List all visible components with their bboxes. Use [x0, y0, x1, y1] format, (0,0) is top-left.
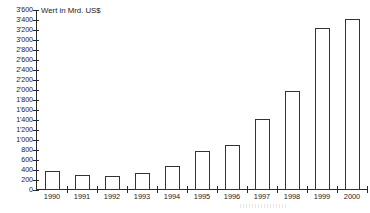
bar: [105, 176, 120, 190]
y-axis-tick-label: 2'400: [0, 66, 33, 73]
y-axis-tick-label: 400: [0, 166, 33, 173]
x-axis-tick-label: 1995: [187, 192, 217, 201]
bar: [165, 166, 180, 191]
y-axis-tick-label: 1'200: [0, 126, 33, 133]
bar: [345, 19, 360, 191]
scan-artifact: [240, 204, 288, 208]
y-axis-tick-label: 200: [0, 176, 33, 183]
x-axis-tick-mark: [367, 186, 368, 193]
bar: [255, 119, 270, 191]
x-axis-tick-label: 1996: [217, 192, 247, 201]
bar: [315, 28, 330, 191]
y-axis-tick-label: 0: [0, 186, 33, 193]
bar-chart: 02004006008001'0001'2001'4001'6001'8002'…: [0, 0, 370, 213]
bar: [195, 151, 210, 190]
y-axis-tick-label: 1'000: [0, 136, 33, 143]
bar: [285, 91, 300, 191]
y-axis-tick-label: 3'400: [0, 16, 33, 23]
x-axis-tick-label: 1994: [157, 192, 187, 201]
x-axis-tick-label: 2000: [337, 192, 367, 201]
y-axis-tick-label: 2'600: [0, 56, 33, 63]
x-axis-tick-label: 1998: [277, 192, 307, 201]
x-axis-tick-label: 1992: [97, 192, 127, 201]
y-axis-tick-label: 1'800: [0, 96, 33, 103]
y-axis-tick-label: 600: [0, 156, 33, 163]
x-axis-tick-label: 1993: [127, 192, 157, 201]
bar: [135, 173, 150, 191]
x-axis-tick-label: 1997: [247, 192, 277, 201]
y-axis-tick-label: 3'000: [0, 36, 33, 43]
x-axis-tick-label: 1999: [307, 192, 337, 201]
y-axis-tick-label: 3'200: [0, 26, 33, 33]
bar: [45, 171, 60, 190]
y-axis-tick-label: 2'800: [0, 46, 33, 53]
bar: [75, 175, 90, 190]
chart-title: Wert in Mrd. US$: [41, 6, 101, 15]
y-axis-tick-label: 1'600: [0, 106, 33, 113]
y-axis-tick-label: 2'000: [0, 86, 33, 93]
y-axis-tick-label: 800: [0, 146, 33, 153]
x-axis-tick-label: 1991: [67, 192, 97, 201]
y-axis-tick-label: 2'200: [0, 76, 33, 83]
bar: [225, 145, 240, 190]
plot-area: [37, 10, 367, 190]
y-axis-tick-mark: [33, 190, 39, 191]
y-axis-labels: 02004006008001'0001'2001'4001'6001'8002'…: [0, 0, 33, 213]
y-axis-tick-label: 1'400: [0, 116, 33, 123]
x-axis-tick-label: 1990: [37, 192, 67, 201]
y-axis-tick-label: 3'600: [0, 6, 33, 13]
